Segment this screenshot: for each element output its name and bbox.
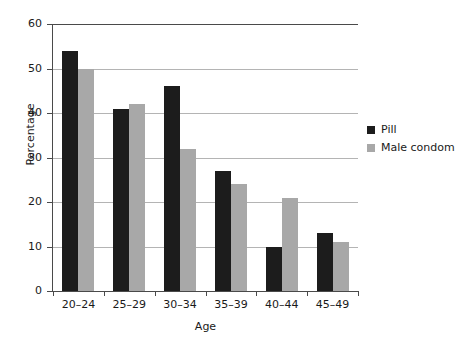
- bar-male-condom-20-24: [78, 69, 94, 292]
- x-tick-mark-2: [155, 291, 156, 296]
- x-axis-title: Age: [0, 320, 411, 333]
- legend-swatch-pill: [367, 126, 375, 134]
- bar-male-condom-30-34: [180, 149, 196, 291]
- bar-male-condom-25-29: [129, 104, 145, 291]
- bar-group-40-44: [266, 24, 298, 291]
- y-tick-label-50: 50: [2, 63, 42, 74]
- bar-pill-40-44: [266, 247, 282, 292]
- x-tick-mark-5: [307, 291, 308, 296]
- bar-male-condom-35-39: [231, 184, 247, 291]
- bar-male-condom-45-49: [333, 242, 349, 291]
- y-tick-label-60: 60: [2, 18, 42, 29]
- x-tick-mark-4: [256, 291, 257, 296]
- bar-group-35-39: [215, 24, 247, 291]
- y-axis-title: Percentage: [24, 75, 37, 195]
- legend-label-pill: Pill: [381, 124, 397, 135]
- legend-label-male-condom: Male condom: [381, 142, 455, 153]
- x-tick-mark-3: [206, 291, 207, 296]
- legend-swatch-male-condom: [367, 144, 375, 152]
- gridline-10: [53, 247, 358, 248]
- x-tick-mark-6: [358, 291, 359, 296]
- gridline-20: [53, 202, 358, 203]
- bar-group-25-29: [113, 24, 145, 291]
- x-tick-mark-1: [104, 291, 105, 296]
- bar-pill-20-24: [62, 51, 78, 291]
- bar-group-20-24: [62, 24, 94, 291]
- y-tick-label-20: 20: [2, 196, 42, 207]
- bar-group-45-49: [317, 24, 349, 291]
- bar-pill-45-49: [317, 233, 333, 291]
- legend-item-male-condom: Male condom: [367, 142, 455, 153]
- x-category-label-45-49: 45–49: [298, 299, 368, 311]
- bar-pill-30-34: [164, 86, 180, 291]
- gridline-30: [53, 158, 358, 159]
- bar-pill-35-39: [215, 171, 231, 291]
- bar-male-condom-40-44: [282, 198, 298, 291]
- chart-legend: Pill Male condom: [367, 124, 455, 160]
- y-tick-label-10: 10: [2, 241, 42, 252]
- legend-item-pill: Pill: [367, 124, 455, 135]
- gridline-60: [53, 24, 358, 25]
- gridline-50: [53, 69, 358, 70]
- bar-group-30-34: [164, 24, 196, 291]
- plot-area: [53, 24, 358, 291]
- y-tick-label-0: 0: [2, 285, 42, 296]
- bar-pill-25-29: [113, 109, 129, 291]
- x-tick-mark-0: [53, 291, 54, 296]
- gridline-40: [53, 113, 358, 114]
